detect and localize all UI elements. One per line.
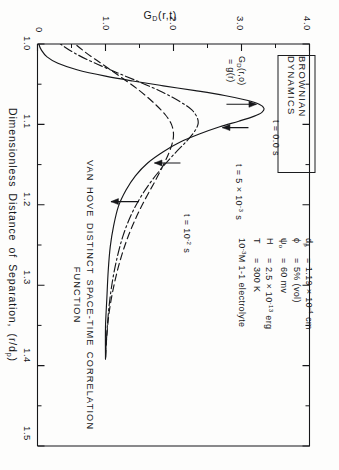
y-axis-title: GD(r,t) [143,10,176,23]
parameter-symbol-dp-sub: p [303,243,310,247]
parameter-value-dp-text: 1.19 × 10 [303,267,313,308]
parameter-symbol-phi: ϕ [290,238,299,258]
parameter-symbol-h: H [263,238,272,258]
data-curve-2 [37,0,173,359]
figure-page: 4.0 3.0 2.0 1.0 0 1.0 1.1 1.2 1.3 1.4 1.… [0,0,339,470]
parameter-row-h: H = 2.5 × 10-13 erg [260,238,273,330]
annotation-label-t1-prefix: t = 5 × 10 [233,164,243,206]
figure-caption-line-1: VAN HOVE DISTINCT SPACE-TIME CORRELATION [83,160,93,430]
parameter-footnote: 10-3M 1-1 electrolyte [236,238,246,330]
parameter-symbol-psi-sub: o [277,245,284,249]
annotation-label-t1: t = 5 × 10-3 s [233,164,243,220]
x-tick-label-0: 1.0 [21,36,31,51]
parameter-row-psi: ψo = 60 mv [273,238,286,330]
rotated-figure-wrapper: 4.0 3.0 2.0 1.0 0 1.0 1.1 1.2 1.3 1.4 1.… [0,0,339,470]
x-tick-label-4: 1.4 [21,348,31,363]
y-tick-label-4: 4.0 [301,16,311,31]
y-axis-title-suffix: (r,t) [158,9,177,21]
x-tick-label-2: 1.2 [21,192,31,207]
parameter-eq-dp: = [303,258,312,267]
y-axis-title-sub: D [152,15,158,23]
parameter-value-t: 300 K [251,267,260,292]
x-tick-label-5: 1.5 [21,426,31,441]
legend-box: BROWNIAN DYNAMICS [277,55,315,173]
parameter-symbol-t: T [251,238,260,258]
parameter-symbol-psi-text: ψ [278,238,288,245]
parameter-unit-h: erg [264,315,274,329]
legend-box-label: BROWNIAN DYNAMICS [285,56,307,172]
parameter-eq-psi: = [277,258,286,267]
parameter-eq-phi: = [290,258,299,267]
parameter-unit-dp: cm [303,317,313,330]
x-axis-title-text: Dimensionless Distance of Separation, (r… [6,108,18,353]
parameter-value-h: 2.5 × 10-13 erg [263,267,273,329]
parameter-row-t: T = 300 K [247,238,260,330]
y-tick-label-1: 1.0 [100,16,110,31]
arrow-annotation-t1 [154,160,180,166]
annotation-label-t1-suffix: s [233,212,243,220]
parameter-eq-t: = [251,258,260,267]
x-axis-title: Dimensionless Distance of Separation, (r… [4,108,17,362]
parameter-footnote-prefix: 10 [237,238,247,249]
parameter-value-dp-exp: -4 [307,308,314,314]
parameter-symbol-phi-text: ϕ [291,238,301,243]
annotation-label-t2: t = 10-2 s [181,214,191,253]
annotation-label-g0: GD(r,o) = g(r) [224,56,247,86]
annotation-label-g0-line2: = g(r) [224,59,235,86]
parameter-row-dp: dp = 1.19 × 10-4 cm [300,238,313,330]
parameter-footnote-text: M 1-1 electrolyte [237,255,247,327]
annotation-label-t0: t = 0.0 s [270,120,279,156]
parameter-block: dp = 1.19 × 10-4 cm ϕ = 5% (vol) ψo = 60… [236,238,313,330]
y-tick-label-0: 0 [33,27,43,33]
parameter-eq-h: = [263,258,272,267]
parameter-value-dp: 1.19 × 10-4 cm [303,267,313,330]
arrow-annotation-t2 [110,199,138,205]
x-axis-title-suffix: ) [6,358,18,362]
parameter-row-phi: ϕ = 5% (vol) [287,238,300,330]
annotation-label-t2-suffix: s [181,245,191,253]
y-axis-title-text: G [143,9,152,21]
parameter-value-h-exp: -13 [267,303,274,313]
x-tick-label-3: 1.3 [21,270,31,285]
data-curve-1 [37,0,198,359]
arrow-annotation-g0 [226,101,256,107]
annotation-label-g0-rest: (r,o) [236,68,246,86]
parameter-value-phi: 5% (vol) [290,267,299,303]
parameter-value-psi: 60 mv [277,267,286,293]
annotation-label-g0-line1: GD(r,o) [235,56,246,86]
figure-caption: VAN HOVE DISTINCT SPACE-TIME CORRELATION… [71,160,93,430]
scientific-figure: 4.0 3.0 2.0 1.0 0 1.0 1.1 1.2 1.3 1.4 1.… [0,0,339,470]
parameter-value-h-text: 2.5 × 10 [264,267,274,303]
figure-caption-line-2: FUNCTION [71,160,81,430]
parameter-symbol-psi: ψo [277,238,287,258]
parameter-symbol-dp: dp [303,238,313,258]
x-tick-label-1: 1.1 [21,114,31,129]
y-tick-label-3: 3.0 [234,16,244,31]
annotation-label-t2-prefix: t = 10 [181,214,191,239]
